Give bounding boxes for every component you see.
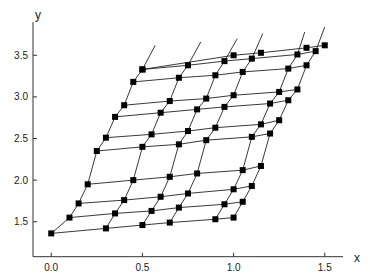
data-point bbox=[231, 215, 237, 221]
data-point bbox=[48, 230, 54, 236]
data-point bbox=[85, 181, 91, 187]
data-point bbox=[158, 110, 164, 116]
data-point bbox=[221, 201, 227, 207]
data-point bbox=[176, 75, 182, 81]
data-point bbox=[258, 121, 264, 127]
data-point bbox=[294, 51, 300, 57]
x-tick-label: 1.0 bbox=[227, 262, 241, 273]
data-point bbox=[185, 128, 191, 134]
data-point bbox=[194, 106, 200, 112]
data-point bbox=[267, 131, 273, 137]
x-ticks: 0.00.51.01.5 bbox=[44, 253, 332, 273]
data-point bbox=[249, 134, 255, 140]
data-point bbox=[212, 216, 218, 222]
row-lines bbox=[51, 45, 325, 233]
data-point bbox=[231, 186, 237, 192]
data-point bbox=[304, 62, 310, 68]
data-point bbox=[276, 117, 282, 123]
row-line bbox=[115, 100, 288, 117]
chart: 0.00.51.01.5 1.52.02.53.03.5 x y bbox=[0, 0, 370, 278]
data-point bbox=[167, 98, 173, 104]
data-point bbox=[249, 183, 255, 189]
data-point bbox=[176, 205, 182, 211]
data-point bbox=[139, 144, 145, 150]
data-point bbox=[258, 50, 264, 56]
data-point bbox=[231, 92, 237, 98]
data-point bbox=[203, 96, 209, 102]
row-line bbox=[79, 186, 252, 203]
data-point bbox=[103, 135, 109, 141]
data-point bbox=[212, 72, 218, 78]
y-ticks: 1.52.02.53.03.5 bbox=[14, 50, 37, 227]
data-point bbox=[240, 167, 246, 173]
data-point bbox=[258, 163, 264, 169]
data-point bbox=[221, 104, 227, 110]
data-point bbox=[240, 199, 246, 205]
row-line bbox=[88, 166, 261, 184]
data-point bbox=[121, 102, 127, 108]
data-point bbox=[130, 177, 136, 183]
data-point bbox=[322, 42, 328, 48]
y-tick-label: 2.0 bbox=[14, 175, 28, 186]
data-point bbox=[94, 148, 100, 154]
x-tick-label: 0.5 bbox=[135, 262, 149, 273]
data-point bbox=[212, 125, 218, 131]
data-point bbox=[194, 170, 200, 176]
y-tick-label: 3.5 bbox=[14, 50, 28, 61]
data-point bbox=[176, 141, 182, 147]
data-point bbox=[294, 86, 300, 92]
data-point bbox=[276, 89, 282, 95]
data-point bbox=[221, 58, 227, 64]
data-point bbox=[139, 222, 145, 228]
data-point bbox=[76, 200, 82, 206]
data-point bbox=[304, 45, 310, 51]
y-tick-label: 3.0 bbox=[14, 91, 28, 102]
data-point bbox=[139, 66, 145, 72]
y-tick-label: 2.5 bbox=[14, 133, 28, 144]
x-axis-label: x bbox=[354, 251, 360, 265]
data-point bbox=[185, 190, 191, 196]
data-point bbox=[167, 220, 173, 226]
data-point bbox=[121, 197, 127, 203]
data-point bbox=[112, 114, 118, 120]
data-point bbox=[313, 48, 319, 54]
data-point bbox=[285, 66, 291, 72]
data-point bbox=[130, 79, 136, 85]
data-point bbox=[158, 194, 164, 200]
data-point bbox=[185, 62, 191, 68]
data-point bbox=[249, 56, 255, 62]
data-point bbox=[231, 52, 237, 58]
data-point bbox=[167, 174, 173, 180]
data-point bbox=[240, 69, 246, 75]
y-tick-label: 1.5 bbox=[14, 216, 28, 227]
data-point bbox=[149, 208, 155, 214]
data-point bbox=[112, 210, 118, 216]
x-tick-label: 0.0 bbox=[44, 262, 58, 273]
y-axis-label: y bbox=[35, 8, 41, 22]
data-point bbox=[285, 97, 291, 103]
x-tick-label: 1.5 bbox=[318, 262, 332, 273]
data-point bbox=[203, 137, 209, 143]
data-point bbox=[149, 131, 155, 137]
data-point bbox=[66, 215, 72, 221]
data-point bbox=[267, 101, 273, 107]
data-point bbox=[103, 225, 109, 231]
